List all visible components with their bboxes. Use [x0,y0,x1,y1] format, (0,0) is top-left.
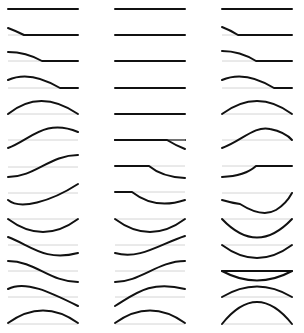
curve-row-13 [222,287,292,298]
curve-row-2 [8,28,78,35]
curve-row-7 [8,155,78,177]
column-2 [115,9,185,324]
column-3 [222,9,292,324]
curve-row-6 [8,127,78,148]
curve-row-4 [222,76,292,88]
curve-row-5 [222,101,292,114]
curve-row-11 [8,261,78,282]
curve-row-8 [115,166,185,178]
curve-row-10 [115,219,185,232]
curve-row-14 [115,311,185,325]
curve-row-10 [8,237,78,256]
curve-row-4 [8,76,78,88]
curve-row-14 [222,302,292,324]
curve-row-12 [8,286,78,306]
column-1 [8,9,78,324]
curve-row-7 [115,140,185,149]
curve-row-9 [115,192,185,204]
curve-row-9 [222,219,292,238]
curve-row-11 [222,271,292,281]
curve-row-9 [8,219,78,232]
curve-row-2 [222,27,292,35]
curve-row-3 [222,51,292,61]
curve-row-6 [222,128,292,148]
curve-row-13 [115,286,185,306]
curve-row-11 [115,236,185,255]
curve-row-3 [8,52,78,61]
curve-row-5 [8,101,78,114]
curve-row-13 [8,311,78,325]
curve-row-7 [222,166,292,177]
curve-row-8 [8,184,78,204]
waveform-grid-diagram [0,0,304,333]
curve-row-12 [115,261,185,282]
curve-row-8 [222,193,292,213]
curve-row-10 [222,245,292,258]
